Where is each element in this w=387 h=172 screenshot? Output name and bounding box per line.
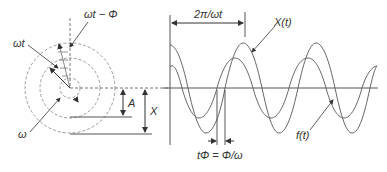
label-amplitude-x: X bbox=[150, 106, 157, 117]
label-amplitude-a: A bbox=[128, 98, 135, 109]
phasor-x bbox=[59, 44, 70, 88]
label-response: X(t) bbox=[274, 17, 292, 28]
label-omega-t-minus-phi: ωt − Φ bbox=[84, 9, 117, 20]
label-force: f(t) bbox=[296, 130, 309, 141]
label-omega-t: ωt bbox=[13, 38, 25, 49]
label-omega: ω bbox=[18, 129, 27, 140]
phasor-sinusoid-diagram bbox=[0, 0, 387, 172]
label-phase-lag: tΦ = Φ/ω bbox=[197, 150, 243, 161]
label-period: 2π/ωt bbox=[194, 9, 222, 20]
